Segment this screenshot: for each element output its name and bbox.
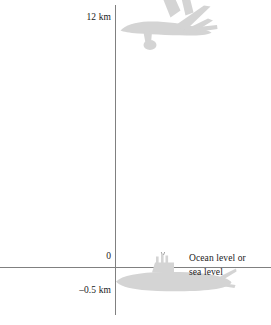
altitude-diagram: 12 km 0 –0.5 km Ocean level or sea level <box>0 0 271 325</box>
sea-level-annotation-line2: sea level <box>189 266 246 280</box>
sea-level-annotation: Ocean level or sea level <box>189 252 246 279</box>
altitude-label-top: 12 km <box>86 12 111 22</box>
airplane-silhouette <box>118 0 218 62</box>
sea-level-annotation-line1: Ocean level or <box>189 252 246 266</box>
altitude-label-bottom: –0.5 km <box>79 285 111 295</box>
altitude-label-zero: 0 <box>106 251 111 261</box>
